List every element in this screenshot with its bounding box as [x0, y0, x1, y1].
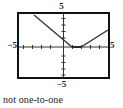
graph-figure: 5 −5 5 −5: [0, 0, 123, 108]
axis-label-x-min: −5: [0, 41, 17, 50]
axis-label-y-max: 5: [0, 2, 123, 11]
figure-caption: not one-to-one: [3, 94, 63, 105]
plot-frame: [17, 12, 110, 79]
function-curve: [34, 15, 108, 47]
plot-canvas: [19, 14, 108, 77]
axis-label-y-min: −5: [0, 80, 123, 89]
axis-label-x-max: 5: [110, 41, 123, 50]
